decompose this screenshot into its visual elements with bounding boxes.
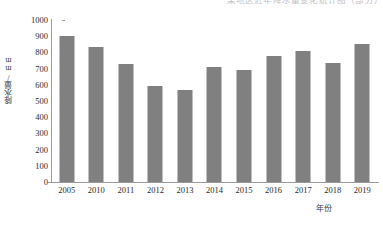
y-axis-tick-label: 0 [18, 178, 48, 187]
y-axis-tick-label: 600 [18, 81, 48, 90]
x-axis-tick-label: 2016 [265, 186, 282, 195]
bar-slot [170, 20, 200, 182]
bar-slot [141, 20, 171, 182]
y-axis-tick-label: 900 [18, 32, 48, 41]
y-axis-tick-label: 100 [18, 162, 48, 171]
y-axis-tick-label: 400 [18, 113, 48, 122]
x-axis-tick-label: 2010 [88, 186, 105, 195]
y-axis-tick-label: 700 [18, 64, 48, 73]
bar-slot [200, 20, 230, 182]
bar-slot [82, 20, 112, 182]
bar[interactable] [89, 47, 104, 182]
x-axis-tick-label: 2015 [236, 186, 253, 195]
x-axis-tick-label: 2018 [324, 186, 341, 195]
bar[interactable] [325, 63, 340, 182]
x-axis-tick-label: 2012 [147, 186, 164, 195]
y-axis-tick-label: 300 [18, 129, 48, 138]
bar-slot [111, 20, 141, 182]
bar-chart-figure: 降水量/mm 10009008007006005004003002001000 … [0, 0, 383, 228]
bar[interactable] [118, 64, 133, 182]
x-axis-tick-label: 2019 [354, 186, 371, 195]
bar[interactable] [148, 86, 163, 182]
plot-area [52, 20, 377, 182]
bar-slot [229, 20, 259, 182]
bar-slot [288, 20, 318, 182]
x-axis-tick-label: 2017 [295, 186, 312, 195]
bar-slot [52, 20, 82, 182]
y-axis-tick-label: 1000 [18, 16, 48, 25]
x-axis-line [48, 182, 379, 183]
y-axis-tick-label: 500 [18, 97, 48, 106]
bar-slot [318, 20, 348, 182]
y-axis-tick-label: 200 [18, 145, 48, 154]
x-axis-tick-label: 2005 [58, 186, 75, 195]
bar-slot [347, 20, 377, 182]
bar[interactable] [59, 36, 74, 182]
bar[interactable] [355, 44, 370, 183]
x-axis-tick-label: 2014 [206, 186, 223, 195]
x-axis-tick-label: 2011 [118, 186, 135, 195]
bar[interactable] [266, 56, 281, 182]
x-axis-tick-label: 2013 [176, 186, 193, 195]
bar[interactable] [237, 70, 252, 182]
bar[interactable] [177, 90, 192, 182]
y-axis-tick-label: 800 [18, 48, 48, 57]
bar[interactable] [207, 67, 222, 182]
x-axis-title: 年份 [316, 204, 333, 213]
bar[interactable] [296, 51, 311, 182]
bar-slot [259, 20, 289, 182]
y-axis-tick-labels: 10009008007006005004003002001000 [14, 0, 48, 228]
